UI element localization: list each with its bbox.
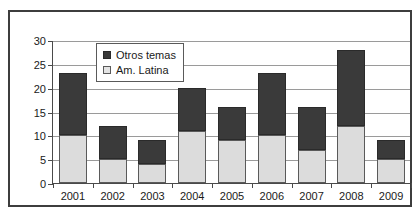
ytick-label-15: 15 xyxy=(34,107,46,119)
bar-segment-otros-temas-2005 xyxy=(218,107,246,140)
ytick-label-10: 10 xyxy=(34,130,46,142)
xtick-2006 xyxy=(252,183,253,188)
ytick-20 xyxy=(48,89,53,90)
bar-2009 xyxy=(377,41,405,183)
xtick-label-2004: 2004 xyxy=(180,190,204,202)
xtick-2007 xyxy=(292,183,293,188)
bar-segment-am-latina-2003 xyxy=(138,164,166,183)
xtick-2005 xyxy=(212,183,213,188)
bar-segment-otros-temas-2006 xyxy=(258,73,286,135)
bar-segment-am-latina-2005 xyxy=(218,140,246,183)
ytick-30 xyxy=(48,41,53,42)
legend-label-am-latina: Am. Latina xyxy=(116,64,169,76)
bar-2006 xyxy=(258,41,286,183)
legend-label-otros-temas: Otros temas xyxy=(116,49,176,61)
legend-swatch-otros-temas xyxy=(103,51,111,59)
bar-segment-am-latina-2001 xyxy=(59,135,87,183)
bar-2008 xyxy=(337,41,365,183)
xtick-label-2002: 2002 xyxy=(100,190,124,202)
legend-swatch-am-latina xyxy=(103,66,111,74)
bar-segment-otros-temas-2008 xyxy=(337,50,365,126)
bar-segment-otros-temas-2009 xyxy=(377,140,405,159)
bar-segment-am-latina-2004 xyxy=(178,131,206,183)
bar-segment-am-latina-2006 xyxy=(258,135,286,183)
xtick-2008 xyxy=(331,183,332,188)
bar-segment-am-latina-2002 xyxy=(99,159,127,183)
bar-2001 xyxy=(59,41,87,183)
chart-legend: Otros temas Am. Latina xyxy=(96,43,184,82)
ytick-label-0: 0 xyxy=(40,178,46,190)
xtick-label-2003: 2003 xyxy=(140,190,164,202)
xtick-2003 xyxy=(133,183,134,188)
xtick-2002 xyxy=(93,183,94,188)
bar-segment-am-latina-2008 xyxy=(337,126,365,183)
xtick-label-2007: 2007 xyxy=(299,190,323,202)
bar-segment-otros-temas-2004 xyxy=(178,88,206,131)
ytick-label-20: 20 xyxy=(34,83,46,95)
chart-frame: 30 25 20 15 10 5 0 200120022003200420052… xyxy=(8,10,412,207)
ytick-label-30: 30 xyxy=(34,35,46,47)
xtick-label-2001: 2001 xyxy=(61,190,85,202)
legend-item-am-latina: Am. Latina xyxy=(103,62,176,77)
xtick-label-2009: 2009 xyxy=(379,190,403,202)
xtick-label-2006: 2006 xyxy=(260,190,284,202)
bar-2007 xyxy=(298,41,326,183)
xtick-2009 xyxy=(371,183,372,188)
xtick-2004 xyxy=(172,183,173,188)
bar-segment-otros-temas-2001 xyxy=(59,73,87,135)
ytick-15 xyxy=(48,113,53,114)
ytick-25 xyxy=(48,65,53,66)
xtick-label-2005: 2005 xyxy=(220,190,244,202)
ytick-5 xyxy=(48,160,53,161)
ytick-label-25: 25 xyxy=(34,59,46,71)
ytick-label-5: 5 xyxy=(40,154,46,166)
bar-segment-otros-temas-2003 xyxy=(138,140,166,164)
bar-segment-am-latina-2009 xyxy=(377,159,405,183)
bar-2005 xyxy=(218,41,246,183)
bar-segment-otros-temas-2007 xyxy=(298,107,326,150)
xtick-end xyxy=(411,183,412,188)
ytick-10 xyxy=(48,136,53,137)
xtick-2001 xyxy=(53,183,54,188)
bar-segment-am-latina-2007 xyxy=(298,150,326,183)
xtick-label-2008: 2008 xyxy=(339,190,363,202)
legend-item-otros-temas: Otros temas xyxy=(103,47,176,62)
bar-segment-otros-temas-2002 xyxy=(99,126,127,159)
